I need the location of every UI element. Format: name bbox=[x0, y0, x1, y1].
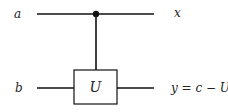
output-label-x: x bbox=[174, 6, 181, 20]
gate-label: U bbox=[90, 79, 103, 95]
circuit-diagram: a b x y = c − U U bbox=[0, 0, 228, 112]
input-label-a: a bbox=[14, 7, 21, 21]
output-label-y: y = c − U bbox=[170, 81, 228, 95]
input-label-b: b bbox=[15, 81, 23, 95]
